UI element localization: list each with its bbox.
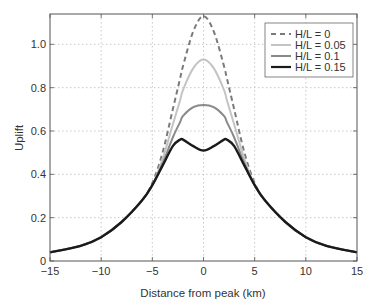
x-tick-label: 0 <box>200 265 206 277</box>
y-tick-label: 0.8 <box>31 82 46 94</box>
y-axis-label: Uplift <box>13 124 25 151</box>
x-tick-label: 5 <box>252 265 258 277</box>
legend: H/L = 0H/L = 0.05H/L = 0.1H/L = 0.15 <box>265 23 353 77</box>
x-tick-label: 10 <box>300 265 312 277</box>
y-tick-label: 0.6 <box>31 125 46 137</box>
x-tick-label: −10 <box>92 265 111 277</box>
legend-label: H/L = 0.15 <box>295 61 346 73</box>
y-tick-label: 0 <box>40 255 46 267</box>
uplift-chart: −15−10−5051015 00.20.40.60.81.0 Distance… <box>0 0 377 305</box>
y-tick-label: 0.4 <box>31 168 46 180</box>
x-tick-label: −5 <box>146 265 159 277</box>
x-axis-label: Distance from peak (km) <box>140 287 265 299</box>
y-tick-label: 0.2 <box>31 212 46 224</box>
y-tick-label: 1.0 <box>31 38 46 50</box>
x-tick-label: 15 <box>351 265 363 277</box>
